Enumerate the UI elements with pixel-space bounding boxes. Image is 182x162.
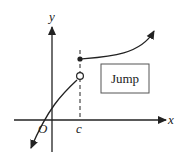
origin-label: O [38,121,48,136]
filled-dot [77,56,82,61]
jump-label: Jump [111,71,139,86]
lower-branch-curve [31,80,77,148]
upper-branch-curve [80,31,154,59]
jump-discontinuity-diagram: Jump y x O c [0,0,182,162]
open-circle [77,73,84,80]
c-tick-label: c [76,121,82,136]
x-axis-label: x [167,112,174,127]
y-axis-label: y [47,9,55,24]
